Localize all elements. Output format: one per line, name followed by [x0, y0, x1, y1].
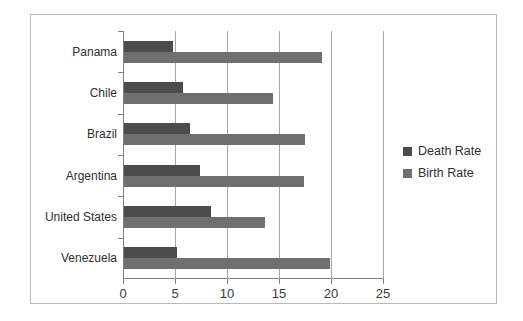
- y-axis-tick: [118, 31, 123, 32]
- legend-swatch-icon: [403, 169, 412, 178]
- x-gridline: [279, 31, 280, 279]
- y-axis-tick: [118, 238, 123, 239]
- bar-death-rate: [124, 206, 211, 217]
- chart-frame: PanamaChileBrazilArgentinaUnited StatesV…: [30, 14, 497, 304]
- x-gridline: [383, 31, 384, 279]
- x-axis-tick-label: 20: [324, 286, 338, 301]
- y-axis-tick: [118, 72, 123, 73]
- category-label: Chile: [90, 86, 117, 100]
- category-label: United States: [45, 210, 117, 224]
- x-gridline: [227, 31, 228, 279]
- x-axis-tick-label: 15: [272, 286, 286, 301]
- bar-death-rate: [124, 123, 190, 134]
- bar-birth-rate: [124, 134, 305, 145]
- bar-birth-rate: [124, 52, 322, 63]
- legend-label: Death Rate: [418, 144, 481, 158]
- x-axis-tick-label: 25: [376, 286, 390, 301]
- x-axis-tick-label: 0: [119, 286, 126, 301]
- legend-label: Birth Rate: [418, 166, 474, 180]
- x-axis-tick: [175, 279, 176, 284]
- x-axis-tick: [383, 279, 384, 284]
- x-gridline: [331, 31, 332, 279]
- x-axis-tick: [331, 279, 332, 284]
- bar-death-rate: [124, 41, 173, 52]
- legend-item[interactable]: Birth Rate: [403, 162, 495, 184]
- category-label: Venezuela: [61, 251, 117, 265]
- x-axis-tick: [227, 279, 228, 284]
- category-label: Argentina: [66, 169, 117, 183]
- x-gridline: [175, 31, 176, 279]
- x-axis-tick: [123, 279, 124, 284]
- category-axis-labels: PanamaChileBrazilArgentinaUnited StatesV…: [31, 31, 117, 279]
- legend-item[interactable]: Death Rate: [403, 140, 495, 162]
- plot-area: 0510152025: [123, 31, 383, 279]
- bar-birth-rate: [124, 176, 304, 187]
- x-axis-line: [123, 278, 383, 279]
- y-axis-tick: [118, 155, 123, 156]
- legend-swatch-icon: [403, 147, 412, 156]
- chart-legend: Death RateBirth Rate: [403, 140, 495, 184]
- y-axis-tick: [118, 114, 123, 115]
- bar-birth-rate: [124, 93, 273, 104]
- bar-birth-rate: [124, 217, 265, 228]
- bar-birth-rate: [124, 258, 330, 269]
- x-axis-tick: [279, 279, 280, 284]
- x-axis-tick-label: 5: [171, 286, 178, 301]
- bar-death-rate: [124, 165, 200, 176]
- bar-death-rate: [124, 82, 183, 93]
- category-label: Brazil: [87, 127, 117, 141]
- y-axis-line: [123, 31, 124, 279]
- category-label: Panama: [72, 45, 117, 59]
- bar-death-rate: [124, 247, 177, 258]
- y-axis-tick: [118, 196, 123, 197]
- x-axis-tick-label: 10: [220, 286, 234, 301]
